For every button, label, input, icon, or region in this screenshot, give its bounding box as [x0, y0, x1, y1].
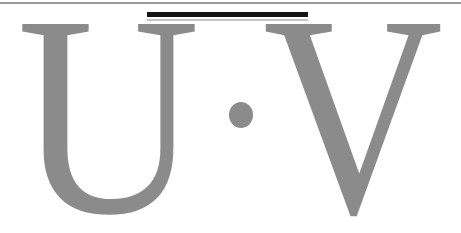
expression-uv: U V	[0, 0, 461, 233]
letter-v: V	[263, 0, 443, 233]
letter-u: U	[17, 0, 200, 233]
interpunct-dot	[229, 102, 253, 128]
page: U V	[0, 0, 461, 233]
